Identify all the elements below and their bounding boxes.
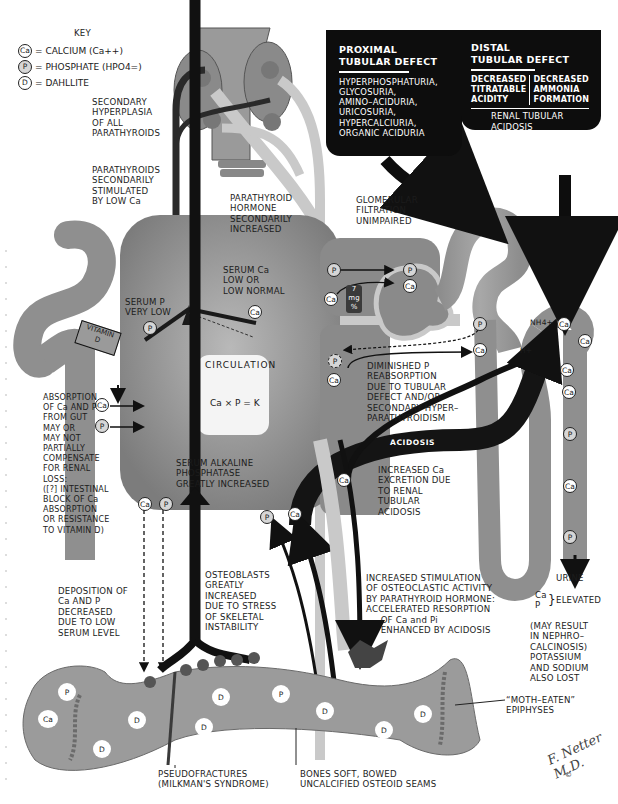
label-elevated: ELEVATED	[556, 595, 601, 605]
phosphate-ion: P	[473, 317, 487, 331]
brace-icon: }	[548, 593, 556, 607]
divider	[471, 69, 535, 71]
key-item-text: = CALCIUM (Ca++)	[35, 44, 123, 58]
phosphate-ion: P	[403, 263, 417, 277]
phosphate-ion: P	[143, 321, 157, 335]
phosphate-ion: P	[260, 510, 274, 524]
calcium-ion: Ca	[578, 334, 592, 348]
dahllite-in-bone: D	[316, 702, 334, 720]
proximal-box-body: HYPERPHOSPHATURIA, GLYCOSURIA, AMINO–ACI…	[339, 77, 452, 139]
dahllite-in-bone: D	[128, 711, 146, 729]
calcium-in-bone: Ca	[38, 710, 58, 728]
label-osteoclastic-activity: INCREASED STIMULATION OF OSTEOCLASTIC AC…	[366, 573, 495, 635]
phosphate-in-bone: P	[58, 683, 76, 701]
label-bones-soft: BONES SOFT, BOWED UNCALCIFIED OSTEOID SE…	[300, 769, 436, 790]
calcium-ion: Ca	[403, 279, 417, 293]
label-glomerular-filtration: GLOMERULAR FILTRATION UNIMPAIRED	[356, 195, 418, 226]
key-legend: Ca = CALCIUM (Ca++) P = PHOSPHATE (HPO4=…	[18, 43, 142, 91]
label-serum-ca: SERUM Ca LOW OR LOW NORMAL	[223, 265, 285, 296]
key-item-phosphate: P = PHOSPHATE (HPO4=)	[18, 59, 142, 75]
dahllite-in-bone: D	[195, 718, 213, 736]
calcium-ion: Ca	[337, 473, 351, 487]
label-gut-absorption: ABSORPTION OF Ca AND P FROM GUT MAY OR M…	[43, 393, 110, 536]
calcium-symbol-icon: Ca	[18, 44, 32, 58]
key-item-text: = DAHLLITE	[35, 76, 89, 90]
label-osteoblasts: OSTEOBLASTS GREATLY INCREASED DUE TO STR…	[205, 570, 276, 632]
label-nephrocalcinosis: (MAY RESULT IN NEPHRO– CALCINOSIS) POTAS…	[530, 621, 589, 683]
label-alkaline-phosphatase: SERUM ALKALINE PHOSPHATASE GREATLY INCRE…	[176, 458, 269, 489]
copyright-mark: ©	[565, 770, 572, 780]
calcium-ion: Ca	[327, 373, 341, 387]
distal-col-acidity: DECREASED TITRATABLE ACIDITY	[471, 75, 530, 106]
proximal-tubular-defect-box: PROXIMAL TUBULAR DEFECT HYPERPHOSPHATURI…	[326, 30, 462, 156]
calcium-ion: Ca	[138, 497, 152, 511]
phosphate-in-bone: P	[272, 685, 290, 703]
calcium-ion: Ca	[473, 343, 487, 357]
dahllite-in-bone: D	[93, 740, 111, 758]
circulation-title: CIRCULATION	[205, 360, 276, 370]
calcium-ion: Ca	[324, 292, 338, 306]
label-nh4: NH4+	[530, 318, 553, 328]
label-diminished-p-reabsorption: DIMINISHED P REABSORPTION DUE TO TUBULAR…	[367, 361, 459, 423]
label-serum-p: SERUM P VERY LOW	[125, 297, 171, 318]
brace	[471, 108, 589, 109]
phosphate-symbol-icon: P	[18, 60, 32, 74]
proximal-box-title: PROXIMAL TUBULAR DEFECT	[339, 44, 452, 67]
label-parathyroids-stimulated: PARATHYROIDS SECONDARILY STIMULATED BY L…	[92, 165, 160, 207]
calcium-ion: Ca	[560, 363, 574, 377]
distal-box-result: RENAL TUBULAR ACIDOSIS	[471, 111, 595, 132]
label-h-ion: H+	[520, 346, 532, 356]
key-item-text: = PHOSPHATE (HPO4=)	[35, 60, 142, 74]
distal-tubular-defect-box: DISTAL TUBULAR DEFECT DECREASED TITRATAB…	[461, 30, 601, 130]
dahllite-symbol-icon: D	[18, 76, 32, 90]
phosphate-ion: P	[327, 263, 341, 277]
calcium-ion: Ca	[562, 385, 576, 399]
calcium-ion: Ca	[557, 317, 571, 331]
label-deposition-decreased: DEPOSITION OF Ca AND P DECREASED DUE TO …	[58, 586, 128, 638]
dahllite-in-bone: D	[212, 688, 230, 706]
dahllite-in-bone: D	[375, 721, 393, 739]
label-urine: URINE	[556, 573, 584, 583]
calcium-ion: Ca	[563, 479, 577, 493]
key-item-dahllite: D = DAHLLITE	[18, 75, 142, 91]
distal-col-ammonia: DECREASED AMMONIA FORMATION	[533, 75, 589, 106]
phosphate-ion: P	[563, 427, 577, 441]
label-pseudofractures: PSEUDOFRACTURES (MILKMAN'S SYNDROME)	[158, 769, 269, 790]
distal-box-title: DISTAL TUBULAR DEFECT	[471, 42, 595, 65]
label-hyperplasia: SECONDARY HYPERPLASIA OF ALL PARATHYROID…	[92, 97, 160, 139]
key-item-calcium: Ca = CALCIUM (Ca++)	[18, 43, 142, 59]
bone-illustration	[23, 640, 480, 770]
serum-ca-level-badge: 7 mg %	[346, 285, 362, 313]
phosphate-ion: P	[563, 530, 577, 544]
dahllite-in-bone: D	[414, 705, 432, 723]
key-title: KEY	[74, 28, 91, 38]
phosphate-ion-dashed: P	[328, 354, 342, 368]
calcium-ion: Ca	[288, 507, 302, 521]
label-acidosis: ACIDOSIS	[390, 438, 435, 447]
calcium-ion: Ca	[248, 305, 262, 319]
label-increased-ca-excretion: INCREASED Ca EXCRETION DUE TO RENAL TUBU…	[378, 465, 451, 517]
circulation-equation: Ca × P = K	[210, 398, 260, 408]
label-elevated-ions: Ca P	[535, 590, 547, 611]
label-moth-eaten: “MOTH–EATEN” EPIPHYSES	[506, 695, 575, 716]
divider	[339, 71, 409, 73]
label-pth-increased: PARATHYROID HORMONE SECONDARILY INCREASE…	[230, 193, 292, 235]
phosphate-ion: P	[159, 497, 173, 511]
